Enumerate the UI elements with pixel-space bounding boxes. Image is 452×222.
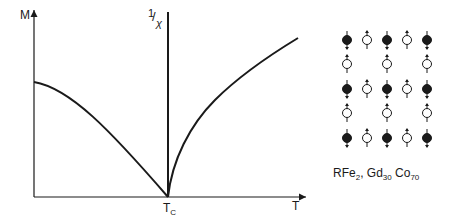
m-axis-label: M bbox=[20, 9, 30, 21]
spin-lattice bbox=[343, 30, 432, 148]
spin-open-up-icon bbox=[363, 30, 372, 49]
spin-filled-down-icon bbox=[343, 129, 352, 148]
spin-filled-down-icon bbox=[423, 31, 432, 50]
spin-filled-down-icon bbox=[343, 80, 352, 99]
spin-filled-down-icon bbox=[383, 80, 392, 99]
spin-filled-down-icon bbox=[423, 80, 432, 99]
t-axis-label: T bbox=[292, 200, 299, 212]
inverse-susceptibility-curve bbox=[168, 38, 298, 197]
magnetization-curve bbox=[34, 82, 168, 197]
magnetization-diagram bbox=[0, 0, 452, 222]
spin-open-up-icon bbox=[343, 103, 352, 122]
inverse-chi-label: 1 / χ bbox=[148, 7, 166, 29]
spin-open-up-icon bbox=[383, 103, 392, 122]
spin-filled-down-icon bbox=[343, 31, 352, 50]
spin-filled-down-icon bbox=[383, 129, 392, 148]
spin-open-up-icon bbox=[383, 54, 392, 73]
spin-open-up-icon bbox=[403, 30, 412, 49]
spin-filled-down-icon bbox=[383, 31, 392, 50]
spin-open-up-icon bbox=[423, 103, 432, 122]
spin-open-up-icon bbox=[363, 128, 372, 147]
tc-label: TC bbox=[163, 202, 176, 217]
spin-open-up-icon bbox=[403, 79, 412, 98]
spin-open-up-icon bbox=[403, 128, 412, 147]
spin-open-up-icon bbox=[343, 54, 352, 73]
spin-filled-down-icon bbox=[423, 129, 432, 148]
spin-open-up-icon bbox=[363, 79, 372, 98]
spin-open-up-icon bbox=[423, 54, 432, 73]
material-caption: RFe2, Gd30 Co70 bbox=[333, 166, 419, 182]
